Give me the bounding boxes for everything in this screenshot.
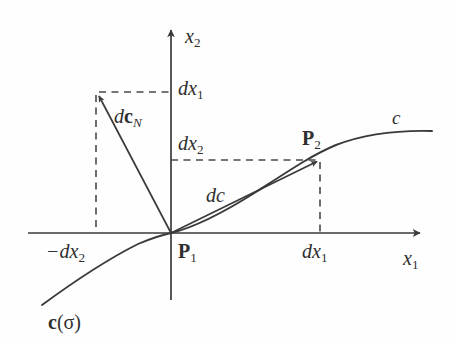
label-negative-dx2: −dx2	[46, 241, 85, 264]
label-dx1-upper-base: dx	[178, 77, 197, 99]
label-negative-dx2-base: −dx	[46, 240, 78, 262]
diagram-canvas	[0, 0, 453, 344]
label-dc-normal-bold: c	[124, 105, 133, 127]
curve-label-c-sigma-base: c	[48, 311, 57, 333]
axis-label-x1: x1	[403, 248, 418, 271]
curve-label-c-sigma: c(σ)	[48, 312, 81, 332]
label-dc-normal-sub: N	[133, 115, 142, 130]
axes-group	[28, 30, 420, 300]
point-label-p2-sub: 2	[314, 137, 321, 152]
vector-dc	[171, 162, 317, 234]
label-dx1-upper-sub: 1	[197, 87, 204, 102]
curve-label-c-base: c	[392, 107, 400, 128]
label-dx1-upper: dx1	[178, 78, 203, 101]
label-dx2-sub: 2	[197, 142, 204, 157]
point-label-p1-base: P	[178, 240, 190, 262]
curve-group	[42, 131, 432, 305]
curve-label-c-sigma-paren: (σ)	[57, 311, 81, 333]
point-label-p1: P1	[178, 241, 197, 264]
label-dx1-lower: dx1	[302, 241, 327, 264]
point-label-p1-sub: 1	[190, 250, 197, 265]
label-dc: dc	[206, 185, 225, 205]
label-dx2-base: dx	[178, 132, 197, 154]
figure-container: x2 dx1 dcN dx2 P2 c dc −dx2 P1 dx1 x1 c(…	[0, 0, 453, 344]
label-dx1-lower-sub: 1	[321, 250, 328, 265]
curve-c-sigma	[42, 131, 432, 305]
axis-label-x2: x2	[185, 26, 200, 49]
label-dc-normal: dcN	[114, 106, 142, 129]
label-negative-dx2-sub: 2	[78, 250, 85, 265]
curve-label-c: c	[392, 108, 400, 127]
axis-label-x1-base: x	[403, 247, 412, 269]
point-label-p2-base: P	[302, 127, 314, 149]
axis-label-x2-sub: 2	[194, 35, 201, 50]
axis-label-x2-base: x	[185, 25, 194, 47]
label-dx1-lower-base: dx	[302, 240, 321, 262]
axis-label-x1-sub: 1	[412, 257, 419, 272]
label-dc-normal-base: d	[114, 105, 124, 127]
label-dc-base: dc	[206, 184, 225, 206]
label-dx2: dx2	[178, 133, 203, 156]
point-label-p2: P2	[302, 128, 321, 151]
